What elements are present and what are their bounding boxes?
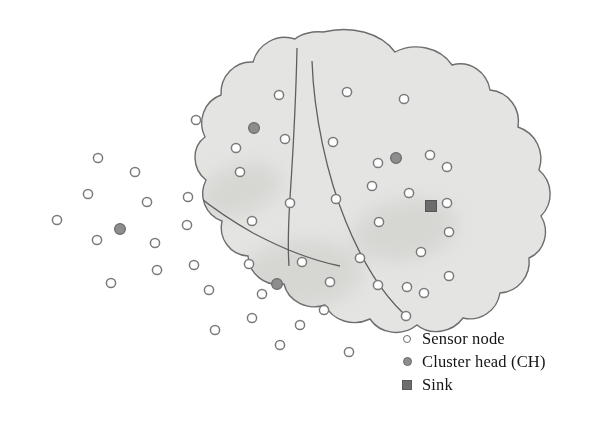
sink-node (426, 201, 437, 212)
sensor-node (150, 238, 159, 247)
sensor-node (328, 137, 337, 146)
cluster-head-icon (396, 357, 418, 366)
sensor-node (331, 194, 340, 203)
sensor-node (106, 278, 115, 287)
sensor-node (130, 167, 139, 176)
sensor-node (204, 285, 213, 294)
sensor-node (355, 253, 364, 262)
sensor-node (402, 282, 411, 291)
sensor-node (275, 340, 284, 349)
sensor-node (244, 259, 253, 268)
sensor-node (401, 311, 410, 320)
sensor-node (152, 265, 161, 274)
legend-label-sensor-node: Sensor node (418, 329, 505, 349)
sensor-node (442, 162, 451, 171)
legend: Sensor node Cluster head (CH) Sink (396, 327, 606, 396)
sensor-node (444, 271, 453, 280)
sensor-node (425, 150, 434, 159)
sensor-node (419, 288, 428, 297)
sensor-node (235, 167, 244, 176)
legend-item-sink: Sink (396, 373, 606, 396)
cluster-head-node (115, 224, 126, 235)
sink-icon (396, 380, 418, 390)
sensor-node (247, 216, 256, 225)
sensor-node (257, 289, 266, 298)
sensor-node (319, 305, 328, 314)
sensor-node (52, 215, 61, 224)
sensor-node (92, 235, 101, 244)
sensor-node (280, 134, 289, 143)
sensor-node (183, 192, 192, 201)
cluster-head-node (249, 123, 260, 134)
sensor-node (399, 94, 408, 103)
sensor-node (374, 217, 383, 226)
sensor-node (442, 198, 451, 207)
sensor-node (404, 188, 413, 197)
sensor-node (444, 227, 453, 236)
figure-canvas: Sensor node Cluster head (CH) Sink (0, 0, 611, 430)
sensor-node (142, 197, 151, 206)
legend-label-cluster-head: Cluster head (CH) (418, 352, 546, 372)
sensor-node (373, 280, 382, 289)
sensor-node (367, 181, 376, 190)
sensor-node (210, 325, 219, 334)
shadow-blob (32, 187, 205, 313)
sensor-node (416, 247, 425, 256)
sensor-node (83, 189, 92, 198)
sensor-node-icon (396, 335, 418, 343)
sensor-node (93, 153, 102, 162)
sensor-node (325, 277, 334, 286)
cluster-head-node (272, 279, 283, 290)
cluster-head-node (391, 153, 402, 164)
legend-item-cluster-head: Cluster head (CH) (396, 350, 606, 373)
sensor-node (342, 87, 351, 96)
cluster-boundary-cluster-bottom-left (186, 266, 225, 365)
legend-label-sink: Sink (418, 375, 453, 395)
sensor-node (247, 313, 256, 322)
sink-group (426, 201, 437, 212)
sensor-node (344, 347, 353, 356)
sensor-node (295, 320, 304, 329)
sensor-node (274, 90, 283, 99)
sensor-node (231, 143, 240, 152)
sensor-node (297, 257, 306, 266)
sensor-node (373, 158, 382, 167)
sensor-node (191, 115, 200, 124)
sensor-node (285, 198, 294, 207)
legend-item-sensor-node: Sensor node (396, 327, 606, 350)
sensor-node (189, 260, 198, 269)
sensor-node (182, 220, 191, 229)
